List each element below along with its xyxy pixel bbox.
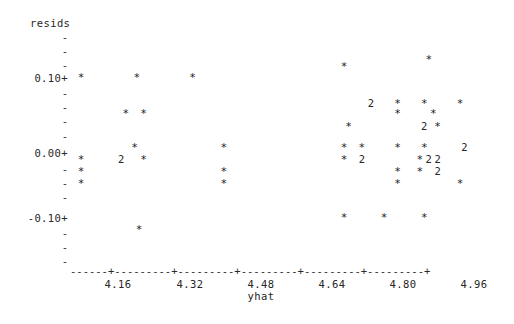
data-point: *	[429, 108, 438, 119]
data-point: *	[393, 178, 402, 189]
y-axis-minor-tick: -	[22, 131, 68, 141]
x-axis-tick-label: 4.64	[312, 279, 352, 289]
y-axis-tick-label: 0.10+	[22, 73, 68, 83]
data-point-overlap: 2	[420, 121, 429, 132]
data-point: *	[420, 98, 429, 109]
y-axis-minor-tick: -	[22, 164, 68, 174]
data-point: *	[340, 61, 349, 72]
x-axis-tick-label: 4.16	[98, 279, 138, 289]
x-axis-title: yhat	[231, 291, 291, 301]
data-point: *	[219, 178, 228, 189]
y-axis-tick-label: -0.10+	[22, 213, 68, 223]
data-point: *	[132, 72, 141, 83]
data-point: *	[455, 98, 464, 109]
data-point: *	[219, 142, 228, 153]
y-axis-minor-tick: -	[22, 116, 68, 126]
y-axis-title: resids	[30, 18, 70, 28]
data-point: *	[393, 142, 402, 153]
y-axis-minor-tick: -	[22, 192, 68, 202]
data-point: *	[424, 54, 433, 65]
data-point-overlap: 2	[366, 98, 375, 109]
data-point: *	[135, 224, 144, 235]
data-point: *	[77, 178, 86, 189]
data-point-overlap: 2	[117, 154, 126, 165]
data-point: *	[393, 108, 402, 119]
data-point: *	[415, 166, 424, 177]
data-point: *	[393, 166, 402, 177]
data-point: *	[219, 166, 228, 177]
data-point-overlap: 2	[357, 154, 366, 165]
data-point: *	[77, 154, 86, 165]
x-axis-line: ------+---------+---------+---------+---…	[70, 266, 430, 276]
y-axis-minor-tick: -	[22, 102, 68, 112]
x-axis-tick-label: 4.80	[383, 279, 423, 289]
data-point: *	[340, 212, 349, 223]
data-point: *	[420, 212, 429, 223]
data-point: *	[121, 108, 130, 119]
data-point: *	[77, 166, 86, 177]
data-point: *	[139, 108, 148, 119]
data-point-overlap: 2	[433, 154, 442, 165]
data-point: *	[415, 154, 424, 165]
data-point: *	[420, 142, 429, 153]
y-axis-minor-tick: -	[22, 46, 68, 56]
data-point: *	[188, 72, 197, 83]
y-axis-minor-tick: -	[22, 256, 68, 266]
data-point: *	[340, 142, 349, 153]
data-point: *	[340, 154, 349, 165]
y-axis-tick-label: 0.00+	[22, 148, 68, 158]
data-point: *	[455, 178, 464, 189]
data-point-overlap: 2	[460, 142, 469, 153]
y-axis-minor-tick: -	[22, 88, 68, 98]
y-axis-minor-tick: -	[22, 228, 68, 238]
data-point-overlap: 2	[424, 154, 433, 165]
data-point-overlap: 2	[433, 166, 442, 177]
data-point: *	[380, 212, 389, 223]
data-point: *	[77, 72, 86, 83]
data-point: *	[357, 142, 366, 153]
data-point: *	[344, 121, 353, 132]
x-axis-tick-label: 4.96	[454, 279, 494, 289]
residual-plot: resids ---0.10+----0.00+----0.10+--- ***…	[0, 0, 514, 324]
y-axis-minor-tick: -	[22, 60, 68, 70]
y-axis-minor-tick: -	[22, 32, 68, 42]
y-axis-minor-tick: -	[22, 178, 68, 188]
x-axis-tick-label: 4.48	[241, 279, 281, 289]
x-axis-tick-label: 4.32	[170, 279, 210, 289]
data-point: *	[433, 121, 442, 132]
y-axis-minor-tick: -	[22, 242, 68, 252]
data-point: *	[130, 142, 139, 153]
data-point: *	[139, 154, 148, 165]
